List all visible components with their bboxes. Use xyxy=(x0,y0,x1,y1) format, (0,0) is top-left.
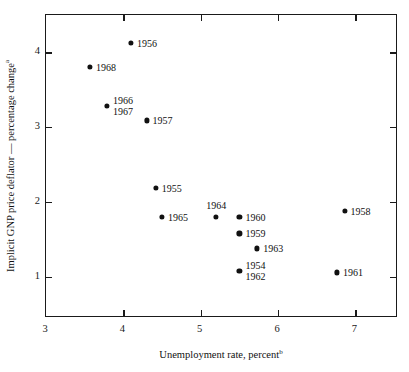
data-point-1966-1967 xyxy=(105,104,110,109)
x-axis-label-text: Unemployment rate, percent xyxy=(159,349,279,360)
data-point-label-1965: 1965 xyxy=(168,212,188,223)
data-point-1964 xyxy=(214,214,219,219)
data-point-1954-1962 xyxy=(237,268,242,273)
y-tick-right-4 xyxy=(390,52,396,53)
y-tick-label-3: 3 xyxy=(29,121,40,132)
plot-area: 1956196819661967195719551965196419601959… xyxy=(45,14,397,317)
data-point-label-1958: 1958 xyxy=(351,206,371,217)
y-tick-right-1 xyxy=(390,277,396,278)
data-point-label-1966-1967: 19661967 xyxy=(113,95,133,117)
y-tick-3 xyxy=(46,127,52,128)
data-point-label-1955: 1955 xyxy=(162,182,182,193)
x-tick-label-6: 6 xyxy=(274,324,279,335)
y-axis-label-wrapper: Implicit GNP price deflator — percentage… xyxy=(0,14,20,317)
data-point-label-1968: 1968 xyxy=(96,61,116,72)
data-point-1960 xyxy=(237,214,242,219)
x-axis-label: Unemployment rate, percentb xyxy=(45,349,397,360)
y-axis-label-text: Implicit GNP price deflator — percentage… xyxy=(5,63,16,272)
data-point-label-1963: 1963 xyxy=(263,243,283,254)
y-tick-label-1: 1 xyxy=(29,271,40,282)
y-tick-2 xyxy=(46,202,52,203)
scatter-plot-figure: 1956196819661967195719551965196419601959… xyxy=(0,0,409,372)
y-tick-1 xyxy=(46,277,52,278)
x-tick-7 xyxy=(355,310,356,316)
data-point-1959 xyxy=(237,231,242,236)
data-point-label-1959: 1959 xyxy=(245,228,265,239)
x-tick-top-5 xyxy=(201,15,202,21)
data-point-1963 xyxy=(255,246,260,251)
x-tick-4 xyxy=(123,310,124,316)
data-point-1956 xyxy=(129,40,134,45)
data-point-1958 xyxy=(342,208,347,213)
x-tick-label-5: 5 xyxy=(197,324,202,335)
data-point-label-1960: 1960 xyxy=(245,212,265,223)
y-tick-4 xyxy=(46,52,52,53)
x-tick-label-4: 4 xyxy=(120,324,125,335)
y-tick-label-2: 2 xyxy=(29,196,40,207)
data-point-1955 xyxy=(153,185,158,190)
y-axis-label: Implicit GNP price deflator — percentage… xyxy=(5,59,16,271)
x-tick-top-6 xyxy=(278,15,279,21)
data-point-1965 xyxy=(159,214,164,219)
x-tick-label-7: 7 xyxy=(352,324,357,335)
data-point-label-1954-1962: 19541962 xyxy=(245,260,265,282)
x-tick-6 xyxy=(278,310,279,316)
y-tick-right-3 xyxy=(390,127,396,128)
x-axis-label-superscript: b xyxy=(279,348,283,356)
data-point-label-1964: 1964 xyxy=(206,200,226,211)
x-tick-label-3: 3 xyxy=(42,324,47,335)
data-point-label-1957: 1957 xyxy=(153,115,173,126)
data-point-1957 xyxy=(144,118,149,123)
y-tick-label-4: 4 xyxy=(29,46,40,57)
data-point-1968 xyxy=(88,64,93,69)
x-tick-top-4 xyxy=(123,15,124,21)
data-point-label-1956: 1956 xyxy=(137,37,157,48)
y-axis-label-superscript: a xyxy=(3,59,11,62)
data-point-1961 xyxy=(334,270,339,275)
x-tick-top-7 xyxy=(355,15,356,21)
x-tick-5 xyxy=(201,310,202,316)
data-point-label-1961: 1961 xyxy=(343,267,363,278)
y-tick-right-2 xyxy=(390,202,396,203)
